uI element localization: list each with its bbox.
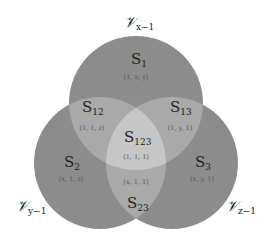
region-s1-tuple: (1, x, y)	[124, 73, 149, 81]
label-vy: 𝒱y−1	[16, 197, 46, 216]
label-vx: 𝒱x−1	[124, 13, 154, 32]
venn-diagram: 𝒱x−1 𝒱y−1 𝒱z−1 S1 (1, x, y) S12 (1, 1, z…	[0, 0, 266, 241]
region-s23-tuple: (x, 1, 1)	[123, 178, 149, 186]
region-s12-tuple: (1, 1, z)	[79, 124, 104, 132]
region-s3-tuple: (x, y, 1)	[190, 175, 214, 183]
region-s2-tuple: (x, 1, z)	[59, 175, 84, 183]
label-vz: 𝒱z−1	[226, 197, 256, 216]
region-s13-tuple: (1, y, 1)	[168, 124, 193, 132]
region-s123-tuple: (1, 1, 1)	[123, 153, 149, 161]
